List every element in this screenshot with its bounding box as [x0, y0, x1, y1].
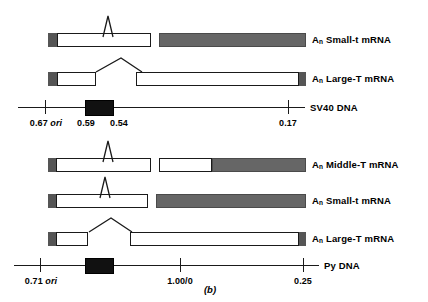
dna-label-sv40: SV40 DNA	[310, 102, 358, 113]
origin-region-box-py	[85, 258, 114, 274]
coordinate-value: 0.59	[77, 118, 95, 128]
intron-loop-py-middle-t	[95, 140, 121, 162]
exon-coding-segment	[159, 33, 306, 47]
transcript-label-py-small-t: An Small-t mRNA	[312, 195, 391, 206]
transcript-name: Small-t mRNA	[326, 34, 391, 45]
transcript-bar-py-middle-t	[48, 158, 306, 172]
transcript-name: Large-T mRNA	[326, 73, 394, 84]
exon-coding-segment	[156, 194, 306, 208]
transcript-label-sv40-large-t: An Large-T mRNA	[312, 73, 394, 84]
coordinate-value: 0.25	[294, 276, 312, 286]
exon-coding-segment	[130, 232, 299, 246]
polya-label: A	[312, 73, 319, 84]
exon-second-segment	[159, 158, 212, 172]
dna-axis-py	[14, 265, 319, 266]
polya-subscript: n	[319, 237, 323, 244]
transcript-bar-sv40-small-t	[48, 33, 306, 47]
intron-loop-sv40-small-t	[95, 15, 121, 37]
polya-subscript: n	[319, 163, 323, 170]
transcript-cap-segment	[48, 232, 56, 246]
origin-marker-label: ori	[45, 276, 57, 286]
panel-caption: (b)	[190, 284, 230, 295]
axis-tick-sv40-067	[45, 100, 46, 114]
transcript-bar-py-small-t	[48, 194, 306, 208]
intron-loop-py-large-t	[87, 217, 137, 247]
transcript-cap-segment	[48, 194, 56, 208]
axis-coordinate-sv40-067: 0.67 ori	[20, 118, 72, 128]
axis-tick-py-100	[180, 258, 181, 272]
transcript-cap-segment	[48, 158, 56, 172]
polya-subscript: n	[319, 77, 323, 84]
transcript-cap-segment	[48, 72, 57, 86]
exon-coding-segment	[212, 158, 306, 172]
transcript-bar-sv40-large-t	[48, 72, 306, 86]
axis-coordinate-sv40-054: 0.54	[104, 118, 134, 128]
transcript-cap-segment	[48, 33, 57, 47]
origin-region-box-sv40	[85, 100, 114, 116]
coordinate-value: 0.67	[30, 118, 48, 128]
axis-tick-py-071	[40, 258, 41, 272]
intron-loop-sv40-large-t	[94, 57, 148, 87]
dna-axis-sv40	[18, 107, 305, 108]
exon-untranslated-segment	[56, 232, 88, 246]
polya-label: A	[312, 34, 319, 45]
origin-marker-label: ori	[50, 118, 62, 128]
polya-label: A	[312, 195, 319, 206]
transcript-tail-segment	[299, 232, 306, 246]
polya-subscript: n	[319, 38, 323, 45]
polya-label: A	[312, 159, 319, 170]
axis-coordinate-sv40-059: 0.59	[71, 118, 101, 128]
axis-tick-py-025	[303, 258, 304, 272]
coordinate-value: 0.71	[25, 276, 43, 286]
coordinate-value: 0.17	[279, 118, 297, 128]
transcript-name: Middle-T mRNA	[326, 159, 399, 170]
coordinate-value: 0.54	[110, 118, 128, 128]
splicing-map-figure: An Small-t mRNA An Large-T mRNA SV40 DNA…	[0, 0, 428, 302]
dna-label-py: Py DNA	[324, 260, 360, 271]
exon-untranslated-segment	[57, 72, 96, 86]
transcript-label-py-large-t: An Large-T mRNA	[312, 233, 394, 244]
polya-subscript: n	[319, 199, 323, 206]
axis-tick-sv40-017	[288, 100, 289, 114]
exon-coding-segment	[136, 72, 299, 86]
transcript-label-sv40-small-t: An Small-t mRNA	[312, 34, 391, 45]
polya-label: A	[312, 233, 319, 244]
transcript-name: Large-T mRNA	[326, 233, 394, 244]
transcript-tail-segment	[299, 72, 306, 86]
transcript-label-py-middle-t: An Middle-T mRNA	[312, 159, 399, 170]
axis-coordinate-py-071: 0.71 ori	[15, 276, 67, 286]
transcript-name: Small-t mRNA	[326, 195, 391, 206]
coordinate-value: 1.00/0	[167, 276, 193, 286]
intron-loop-py-small-t	[92, 176, 118, 198]
axis-coordinate-sv40-017: 0.17	[273, 118, 303, 128]
axis-coordinate-py-025: 0.25	[288, 276, 318, 286]
